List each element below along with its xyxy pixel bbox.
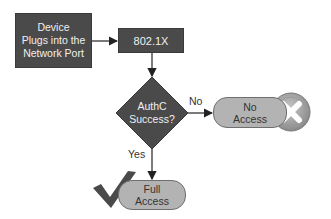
node-full-access: Full Access [118, 180, 186, 210]
node-device-plugs-in: Device Plugs into the Network Port [15, 13, 92, 68]
edge-label-no: No [189, 95, 202, 107]
decision-label: AuthC Success? [116, 100, 188, 126]
node-8021x: 802.1X [118, 28, 184, 53]
node-no-access: No Access [213, 97, 287, 128]
edge-label-yes: Yes [128, 148, 145, 160]
